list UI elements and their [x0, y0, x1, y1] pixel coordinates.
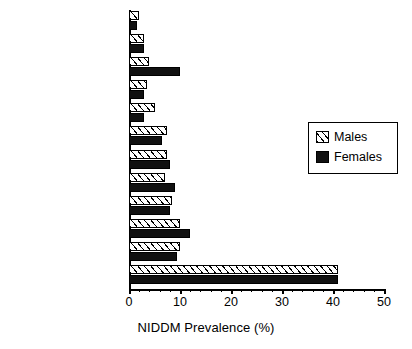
bar-females	[129, 275, 338, 284]
bar-row	[129, 264, 384, 287]
legend-entry-males: Males	[316, 131, 367, 144]
x-axis-tick-label: 10	[160, 296, 200, 309]
bar-males	[129, 219, 180, 228]
x-axis-minor-tick	[323, 289, 324, 292]
x-axis-minor-tick	[139, 289, 140, 292]
x-axis-minor-tick	[200, 289, 201, 292]
legend-label-females: Females	[334, 151, 382, 164]
bar-row	[129, 79, 384, 102]
bar-row	[129, 33, 384, 56]
bar-males	[129, 80, 147, 89]
x-axis-line	[129, 289, 385, 291]
bar-males	[129, 103, 155, 112]
x-axis-minor-tick	[343, 289, 344, 292]
bar-males	[129, 150, 167, 159]
bar-females	[129, 206, 170, 215]
legend-label-males: Males	[334, 131, 367, 144]
solid-black-swatch	[316, 151, 329, 163]
x-axis-tick	[231, 289, 233, 294]
x-axis-minor-tick	[251, 289, 252, 292]
x-axis-minor-tick	[221, 289, 222, 292]
x-axis-title: NIDDM Prevalence (%)	[0, 320, 412, 335]
x-axis-minor-tick	[170, 289, 171, 292]
x-axis-minor-tick	[313, 289, 314, 292]
x-axis-minor-tick	[272, 289, 273, 292]
bar-males	[129, 34, 144, 43]
x-axis-tick-label: 20	[211, 296, 251, 309]
bar-males	[129, 57, 149, 66]
bar-row	[129, 56, 384, 79]
bar-females	[129, 252, 177, 261]
bar-females	[129, 21, 137, 30]
x-axis-tick	[180, 289, 182, 294]
bar-females	[129, 160, 170, 169]
bar-row	[129, 241, 384, 264]
niddm-prevalence-bar-chart: 01020304050 NIDDM Prevalence (%) Males F…	[0, 0, 412, 349]
legend-entry-females: Females	[316, 151, 382, 164]
bar-females	[129, 113, 144, 122]
bar-females	[129, 90, 144, 99]
x-axis-tick-label: 40	[313, 296, 353, 309]
bar-males	[129, 126, 167, 135]
x-axis-tick	[333, 289, 335, 294]
bar-row	[129, 195, 384, 218]
bar-females	[129, 183, 175, 192]
x-axis-tick-label: 50	[364, 296, 404, 309]
chart-legend: Males Females	[308, 122, 398, 174]
bar-females	[129, 229, 190, 238]
bar-row	[129, 218, 384, 241]
x-axis-minor-tick	[262, 289, 263, 292]
x-axis-minor-tick	[292, 289, 293, 292]
bar-row	[129, 10, 384, 33]
x-axis-tick	[384, 289, 386, 294]
x-axis-tick	[129, 289, 131, 294]
x-axis-minor-tick	[211, 289, 212, 292]
bar-males	[129, 265, 338, 274]
x-axis-minor-tick	[364, 289, 365, 292]
bar-males	[129, 173, 165, 182]
x-axis-minor-tick	[374, 289, 375, 292]
x-axis-minor-tick	[149, 289, 150, 292]
x-axis-tick-label: 30	[262, 296, 302, 309]
bar-females	[129, 67, 180, 76]
hatched-swatch	[316, 131, 329, 143]
x-axis-minor-tick	[160, 289, 161, 292]
x-axis-minor-tick	[353, 289, 354, 292]
bar-row	[129, 172, 384, 195]
bar-males	[129, 11, 139, 20]
x-axis-tick	[282, 289, 284, 294]
bar-males	[129, 196, 172, 205]
x-axis-minor-tick	[241, 289, 242, 292]
bar-females	[129, 136, 162, 145]
x-axis-minor-tick	[190, 289, 191, 292]
x-axis-minor-tick	[302, 289, 303, 292]
bar-females	[129, 44, 144, 53]
x-axis-tick-label: 0	[109, 296, 149, 309]
bar-males	[129, 242, 180, 251]
